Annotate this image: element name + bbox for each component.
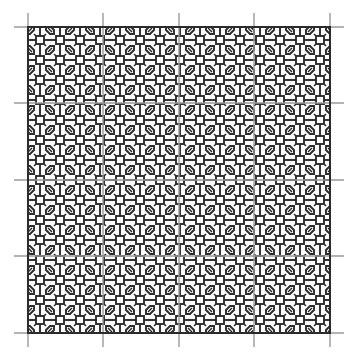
pattern-chart-svg xyxy=(0,0,351,358)
pattern-chart-canvas xyxy=(0,0,351,358)
